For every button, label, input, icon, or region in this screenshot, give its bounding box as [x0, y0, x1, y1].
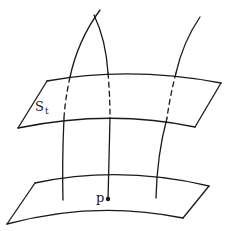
middle-curve-hidden	[108, 73, 110, 118]
left-curve	[63, 10, 100, 200]
left-curve-bottom	[63, 118, 64, 200]
lower-surface-bottom-edge	[7, 210, 183, 224]
lower-surface-right-edge	[183, 186, 209, 218]
upper-surface	[18, 74, 221, 128]
right-curve-bottom	[156, 118, 167, 198]
right-curve	[156, 17, 200, 198]
point-p-dot	[106, 197, 110, 201]
right-curve-top	[176, 17, 200, 73]
point-label-p: p	[96, 190, 104, 205]
surface-label-S: S	[35, 99, 44, 114]
surface-label-subscript: t	[45, 106, 49, 116]
left-curve-hidden	[64, 77, 70, 118]
diagram: S t p	[0, 0, 227, 231]
middle-curve	[94, 15, 110, 200]
middle-curve-top	[94, 15, 108, 73]
upper-surface-right-edge	[195, 83, 221, 127]
right-curve-hidden	[167, 73, 176, 118]
upper-surface-top-edge	[47, 74, 221, 83]
lower-surface-top-edge	[35, 175, 209, 186]
middle-curve-bottom	[108, 118, 110, 200]
upper-surface-bottom-edge	[18, 118, 195, 128]
left-curve-top	[70, 10, 100, 77]
